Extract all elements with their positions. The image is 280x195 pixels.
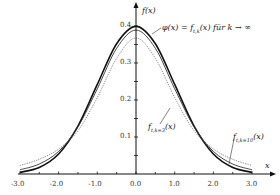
x-tick-label: -3.0	[11, 180, 25, 188]
y-tick-label: 0.1	[120, 132, 131, 140]
t3-label-rest: (x)	[165, 122, 176, 131]
normal-label-sub: t,k	[193, 28, 200, 34]
legend-t3-label: ft,k=3(x)	[148, 122, 176, 133]
t-distribution-chart: f(x) x φ(x) = ft,k(x) für k → ∞ ft,k=3(x…	[0, 0, 280, 195]
x-axis-arrow-icon	[270, 172, 276, 177]
t3-label-sub: t,k=3	[151, 127, 165, 133]
x-tick-label: -1.0	[88, 180, 102, 188]
x-tick-label: -2.0	[50, 180, 64, 188]
y-tick-label: 0.4	[120, 21, 131, 29]
y-tick-label: 0.3	[120, 58, 131, 66]
normal-label-main: φ(x) = f	[162, 23, 193, 32]
x-tick-label: 0.0	[130, 180, 141, 188]
legend-normal-label: φ(x) = ft,k(x) für k → ∞	[162, 23, 251, 34]
y-axis-label: f(x)	[142, 6, 156, 15]
x-tick-label: 3.0	[246, 180, 257, 188]
y-axis-arrow-icon	[134, 2, 139, 8]
x-tick-label: 1.0	[169, 180, 180, 188]
y-tick-label: 0.2	[120, 95, 131, 103]
normal-label-rest: (x) für k → ∞	[200, 23, 251, 32]
x-tick-label: 2.0	[207, 180, 218, 188]
legend-t10-label: ft,k=10(x)	[233, 132, 264, 143]
x-axis-label: x	[265, 161, 270, 170]
t10-label-sub: t,k=10	[236, 137, 253, 143]
t10-label-rest: (x)	[253, 132, 264, 141]
